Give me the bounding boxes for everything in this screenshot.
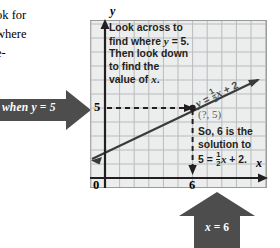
when-y-equals-5-arrow: when y = 5 bbox=[0, 90, 92, 130]
body-copy-line-1: ok for bbox=[0, 6, 88, 25]
when-label-suffix: = 5 bbox=[37, 101, 56, 113]
note-bottom-line-2: solution to bbox=[198, 139, 253, 152]
x-equals-6-arrow: x = 6 bbox=[178, 192, 256, 248]
up-arrow-icon bbox=[178, 192, 256, 248]
note-bottom-line-1: So, 6 is the bbox=[198, 126, 253, 139]
vertical-guide-arrowhead bbox=[188, 165, 196, 175]
note-top-line-4: to find the bbox=[109, 61, 189, 74]
origin-label: 0 bbox=[93, 178, 99, 193]
body-copy-line-2: where bbox=[0, 25, 88, 44]
line-arrowhead-right bbox=[248, 79, 260, 87]
point-coordinate-label: (?, 5) bbox=[198, 108, 221, 120]
body-copy-line-3: e- bbox=[0, 44, 88, 63]
body-copy: ok for where e- bbox=[0, 6, 88, 63]
x-label-rest: = 6 bbox=[211, 221, 229, 233]
coordinate-graph: y x 5 6 0 Look across to find where y = … bbox=[90, 18, 268, 188]
x-equals-6-label: x = 6 bbox=[178, 221, 256, 233]
note-bottom-line-3: 5 = 12x + 2. bbox=[198, 151, 253, 167]
x-axis-label: x bbox=[256, 156, 262, 171]
figure-root: ok for where e- when y = 5 bbox=[0, 0, 280, 248]
note-top-line-1: Look across to bbox=[109, 22, 189, 35]
note-top-line-5: value of x. bbox=[109, 73, 189, 87]
x-axis-arrowhead bbox=[258, 174, 268, 183]
y-tick-label-5: 5 bbox=[94, 100, 100, 115]
note-top-line-3: Then look down bbox=[109, 48, 189, 61]
note-top-line-2: find where y = 5. bbox=[109, 35, 189, 49]
when-y-equals-5-label: when y = 5 bbox=[2, 101, 70, 113]
x-tick-label-6: 6 bbox=[189, 178, 195, 193]
y-axis-label: y bbox=[110, 4, 115, 19]
solution-point bbox=[189, 105, 195, 111]
when-label-prefix: when bbox=[2, 101, 31, 113]
note-top: Look across to find where y = 5. Then lo… bbox=[109, 22, 189, 87]
note-bottom: So, 6 is the solution to 5 = 12x + 2. bbox=[198, 126, 253, 168]
